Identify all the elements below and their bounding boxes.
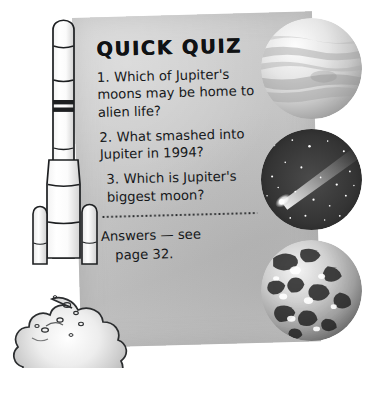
quiz-question-3: 3. Which is Jupiter's biggest moon? [106,167,270,206]
quiz-question-3-text: Which is Jupiter's biggest moon? [107,169,237,205]
quiz-page: QUICK QUIZ 1. Which of Jupiter's moons m… [0,0,370,394]
comet-photo [261,129,362,230]
quiz-text-column: QUICK QUIZ 1. Which of Jupiter's moons m… [96,36,271,266]
quiz-question-2: 2. What smashed into Jupiter in 1994? [99,124,269,163]
answers-note: Answers — see page 32. [101,223,272,265]
dotted-divider [101,212,257,218]
quiz-question-1-number: 1. [97,69,110,84]
page-title: QUICK QUIZ [96,36,266,60]
moon-photo [261,240,362,341]
answers-note-line-2: page 32. [115,242,271,265]
quiz-question-3-number: 3. [106,171,119,186]
quiz-question-2-text: What smashed into Jupiter in 1994? [100,126,245,162]
quiz-question-1-text: Which of Jupiter's moons may be home to … [97,66,254,120]
quiz-question-1: 1. Which of Jupiter's moons may be home … [97,64,268,121]
jupiter-photo [261,18,362,119]
answers-note-line-1: Answers — see [101,227,201,244]
quiz-question-2-number: 2. [99,129,112,144]
